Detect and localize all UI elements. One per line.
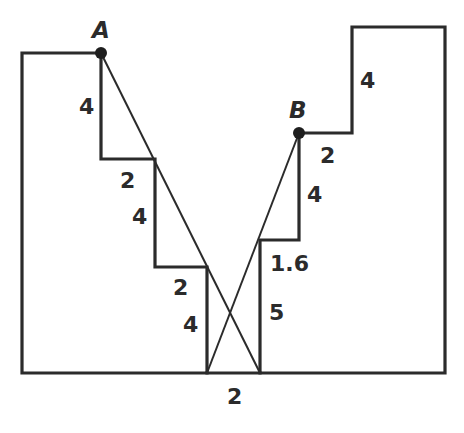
left-rise-mid-label: 4 [132, 204, 147, 229]
point-a-dot [95, 47, 107, 59]
point-b-dot [293, 127, 305, 139]
bottom-gap-label: 2 [227, 384, 242, 409]
left-stepped-outline [22, 53, 207, 373]
left-rise-bottom-label: 4 [183, 312, 198, 337]
right-rise-mid-label: 4 [307, 182, 322, 207]
right-stepped-outline [260, 27, 445, 373]
right-rise-bottom-label: 5 [269, 300, 284, 325]
left-run-2-label: 2 [173, 275, 188, 300]
geometry-diagram: A B 4 2 4 2 4 4 2 4 1.6 5 2 [0, 0, 464, 433]
right-run-top-label: 2 [320, 143, 335, 168]
segment-a-to-bottom-right [101, 53, 260, 373]
left-rise-top-label: 4 [79, 94, 94, 119]
point-b-label: B [289, 97, 307, 123]
left-run-1-label: 2 [120, 168, 135, 193]
right-run-mid-label: 1.6 [270, 251, 309, 276]
point-a-label: A [90, 17, 110, 43]
right-rise-top-label: 4 [360, 68, 375, 93]
